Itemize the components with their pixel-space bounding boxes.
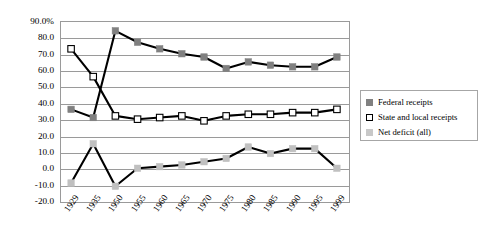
legend-label-state-and-local-receipts: State and local receipts — [378, 112, 457, 122]
x-tick-label: 1980 — [239, 193, 258, 214]
legend-item-net-deficit: Net deficit (all) — [366, 125, 473, 139]
x-tick-label: 1999 — [328, 193, 347, 214]
legend-label-federal-receipts: Federal receipts — [378, 97, 433, 107]
x-tick-label: 1970 — [195, 193, 214, 214]
x-tick-label: 1929 — [62, 193, 81, 214]
legend-swatch-state-and-local-receipts — [366, 114, 373, 121]
x-tick-label: 1935 — [84, 193, 103, 214]
x-tick-label: 1995 — [306, 193, 325, 214]
legend-item-state-and-local-receipts: State and local receipts — [366, 110, 473, 124]
x-tick-label: 1950 — [106, 193, 125, 214]
x-tick-label: 1955 — [129, 193, 148, 214]
x-tick-label: 1960 — [151, 193, 170, 214]
x-tick-label: 1985 — [261, 193, 280, 214]
legend-label-net-deficit: Net deficit (all) — [378, 127, 431, 137]
x-tick-label: 1990 — [284, 193, 303, 214]
x-tick-label: 1975 — [217, 193, 236, 214]
chart-container: 90.0%80.070.060.050.040.030.020.010.00.0… — [0, 0, 489, 246]
x-tick-label: 1965 — [173, 193, 192, 214]
chart-legend: Federal receipts State and local receipt… — [360, 90, 478, 141]
legend-swatch-net-deficit — [366, 129, 373, 136]
legend-swatch-federal-receipts — [366, 99, 373, 106]
legend-item-federal-receipts: Federal receipts — [366, 95, 473, 109]
